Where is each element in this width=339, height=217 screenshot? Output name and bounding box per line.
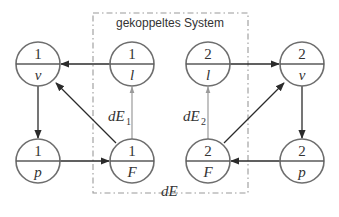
label-dE2-sub: 2 (201, 116, 206, 127)
edges (38, 64, 302, 161)
node-1l-symbol: l (130, 67, 134, 83)
node-1F: 1 F (110, 139, 154, 183)
node-1l: 1 l (110, 42, 154, 86)
label-dE-total: dE (161, 183, 178, 199)
node-2F: 2 F (186, 139, 230, 183)
label-dE2-main: dE (183, 108, 200, 124)
node-1v-symbol: v (35, 67, 42, 83)
node-2p-symbol: p (297, 164, 306, 180)
node-1l-index: 1 (128, 46, 136, 62)
node-2v: 2 v (280, 42, 324, 86)
node-2v-index: 2 (298, 46, 306, 62)
node-1p: 1 p (16, 139, 60, 183)
node-2l-symbol: l (206, 67, 210, 83)
node-1v-index: 1 (34, 46, 42, 62)
node-2F-index: 2 (204, 143, 212, 159)
node-1p-symbol: p (33, 164, 42, 180)
node-1v: 1 v (16, 42, 60, 86)
label-dE2: dE 2 (183, 108, 206, 127)
node-2l-index: 2 (204, 46, 212, 62)
label-dE1-sub: 1 (126, 116, 131, 127)
label-dE1-main: dE (108, 108, 125, 124)
node-1p-index: 1 (34, 143, 42, 159)
node-1F-symbol: F (126, 164, 137, 180)
edge-2F-to-2v (224, 83, 284, 143)
node-1F-index: 1 (128, 143, 136, 159)
node-2p-index: 2 (298, 143, 306, 159)
box-title: gekoppeltes System (116, 16, 224, 30)
label-dE1: dE 1 (108, 108, 131, 127)
edge-1F-to-1v (56, 83, 116, 143)
coupled-system-diagram: gekoppeltes System 1 v 1 l (0, 0, 339, 217)
node-2l: 2 l (186, 42, 230, 86)
node-2p: 2 p (280, 139, 324, 183)
node-2v-symbol: v (299, 67, 306, 83)
node-2F-symbol: F (202, 164, 213, 180)
